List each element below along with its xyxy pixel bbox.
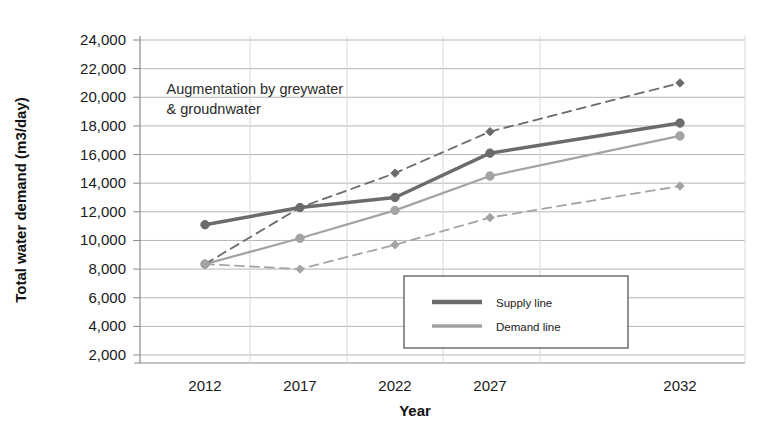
data-point-marker xyxy=(391,193,399,201)
x-tick-label: 2027 xyxy=(473,377,506,394)
data-point-marker xyxy=(486,149,494,157)
y-tick-label: 20,000 xyxy=(80,88,126,105)
y-tick-label: 4,000 xyxy=(88,317,126,334)
y-axis-title: Total water demand (m3/day) xyxy=(12,97,29,303)
data-point-marker xyxy=(391,206,399,214)
x-tick-label: 2022 xyxy=(378,377,411,394)
y-tick-label: 8,000 xyxy=(88,260,126,277)
y-tick-label: 24,000 xyxy=(80,31,126,48)
legend-label: Demand line xyxy=(496,321,561,333)
x-tick-label: 2017 xyxy=(283,377,316,394)
y-tick-label: 10,000 xyxy=(80,231,126,248)
data-point-marker xyxy=(676,132,684,140)
data-point-marker xyxy=(676,119,684,127)
x-tick-label: 2032 xyxy=(663,377,696,394)
y-tick-label: 18,000 xyxy=(80,117,126,134)
y-tick-label: 16,000 xyxy=(80,146,126,163)
y-tick-label: 22,000 xyxy=(80,60,126,77)
annotation-line-1: Augmentation by greywater xyxy=(167,81,344,97)
data-point-marker xyxy=(486,172,494,180)
legend-label: Supply line xyxy=(496,297,552,309)
y-tick-label: 12,000 xyxy=(80,203,126,220)
data-point-marker xyxy=(296,234,304,242)
x-tick-label: 2012 xyxy=(188,377,221,394)
line-chart: 2,0004,0006,0008,00010,00012,00014,00016… xyxy=(0,0,776,444)
legend-box xyxy=(404,276,628,348)
annotation-line-2: & groudnwater xyxy=(167,101,261,117)
y-tick-label: 6,000 xyxy=(88,289,126,306)
data-point-marker xyxy=(201,221,209,229)
chart-container: 2,0004,0006,0008,00010,00012,00014,00016… xyxy=(0,0,776,444)
y-tick-label: 14,000 xyxy=(80,174,126,191)
x-axis-title: Year xyxy=(399,402,431,419)
y-tick-label: 2,000 xyxy=(88,346,126,363)
chart-legend: Supply lineDemand line xyxy=(404,276,628,348)
